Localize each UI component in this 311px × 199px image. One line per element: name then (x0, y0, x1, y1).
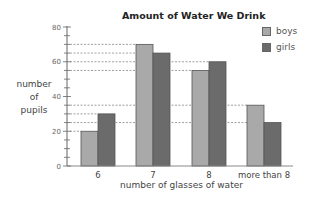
x-tick-label: more than 8 (238, 170, 290, 180)
bar-girls (153, 53, 170, 166)
y-tick-label: 20 (52, 128, 61, 136)
x-tick-label: 6 (95, 170, 100, 180)
y-tick-label: 40 (52, 93, 61, 101)
bar-boys (247, 105, 264, 166)
bar-girls (264, 123, 281, 166)
y-tick-label: 60 (52, 58, 61, 66)
bar-boys (192, 70, 209, 166)
x-tick-label: 7 (150, 170, 155, 180)
y-tick-label: 80 (52, 24, 61, 32)
bar-boys (81, 131, 98, 166)
x-tick-label: 8 (206, 170, 211, 180)
plot-area: 678more than 8020406080 (0, 0, 311, 199)
y-tick-label: 0 (57, 163, 61, 171)
bar-girls (98, 114, 115, 166)
bar-girls (209, 62, 226, 166)
x-axis-label: number of glasses of water (120, 180, 243, 190)
bar-boys (136, 44, 153, 166)
